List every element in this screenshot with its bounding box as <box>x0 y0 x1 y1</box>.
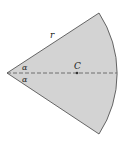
angle-label-bottom: α <box>22 75 28 84</box>
sector-shape <box>7 13 117 134</box>
radius-label: r <box>50 30 55 40</box>
angle-label-top: α <box>22 63 28 72</box>
sector-diagram: r α α C <box>0 0 127 141</box>
centroid-label: C <box>74 61 81 71</box>
centroid-point <box>76 72 79 75</box>
